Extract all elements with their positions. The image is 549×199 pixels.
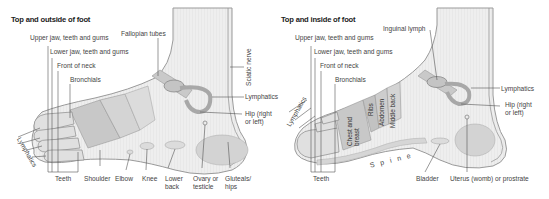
label-lymphatics: Lymphatics (245, 93, 278, 101)
label-upper-jaw: Upper jaw, teeth and gums (295, 34, 373, 42)
label-upper-jaw: Upper jaw, teeth and gums (30, 34, 108, 42)
label-hip-line1: Hip (right (245, 110, 272, 117)
label-chest-line2: breast (353, 128, 360, 146)
label-hip-line2: or left) (505, 109, 524, 116)
label-bronchials: Bronchials (70, 76, 101, 84)
label-lower-jaw: Lower jaw, teeth and gums (50, 48, 128, 56)
label-teeth: Teeth (313, 175, 329, 183)
label-middle-back: Middle back (389, 94, 396, 128)
label-front-of-neck: Front of neck (57, 62, 95, 70)
label-inguinal-lymph: Inguinal lymph (383, 25, 426, 33)
label-front-of-neck: Front of neck (320, 62, 358, 70)
label-lymphatics: Lymphatics (501, 85, 534, 93)
label-hip-line2: or left) (245, 118, 264, 125)
label-gluteals-hips: Gluteals/ hips (225, 175, 251, 190)
label-ovary-line2: testicle (193, 183, 214, 190)
uterus-prostate-zone (455, 124, 495, 156)
label-hip: Hip (right or left) (245, 110, 272, 125)
inside-foot-title: Top and inside of foot (281, 15, 355, 24)
label-hip: Hip (right or left) (505, 101, 532, 116)
bladder-zone (431, 138, 449, 144)
label-ovary-testicle: Ovary or testicle (193, 175, 218, 190)
inside-foot-panel: Top and inside of foot Inguinal lymph Up… (275, 0, 549, 199)
label-fallopian-tubes: Fallopian tubes (121, 30, 166, 38)
label-bronchials: Bronchials (335, 76, 366, 84)
label-gluteals-line2: hips (225, 183, 237, 190)
label-lower-back: Lower back (165, 175, 183, 190)
outside-foot-title: Top and outside of foot (11, 15, 90, 24)
label-ribs: Ribs (367, 103, 374, 116)
label-teeth: Teeth (55, 175, 71, 183)
label-lower-back-line2: back (165, 183, 179, 190)
label-chest-breast: Chest and breast (346, 117, 360, 146)
label-uterus-prostrate: Uterus (womb) or prostrate (450, 175, 529, 183)
label-abdomen: Abdomen (378, 99, 385, 126)
label-gluteals-line1: Gluteals/ (225, 175, 251, 182)
outside-foot-panel: Top and outside of foot Upper jaw, teeth… (0, 0, 275, 199)
label-hip-line1: Hip (right (505, 101, 532, 108)
label-knee: Knee (142, 175, 157, 183)
label-bladder: Bladder (416, 175, 439, 183)
label-chest-line1: Chest and (346, 117, 353, 146)
label-lower-jaw: Lower jaw, teeth and gums (314, 48, 392, 56)
label-shoulder: Shoulder (84, 175, 110, 183)
label-lower-back-line1: Lower (165, 175, 183, 182)
label-ovary-line1: Ovary or (193, 175, 218, 182)
label-sciatic-nerve: Sciatic nerve (245, 48, 252, 86)
label-elbow: Elbow (115, 175, 133, 183)
